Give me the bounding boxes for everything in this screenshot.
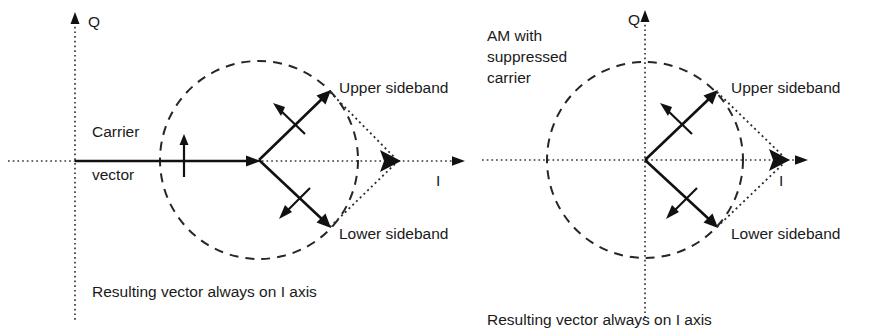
- right-annotation-line-3: carrier: [487, 69, 531, 86]
- right-i-axis-arrowhead: [795, 155, 808, 165]
- right-upper-construction-line: [717, 92, 784, 157]
- left-carrier-tick-arrowhead: [180, 134, 189, 145]
- right-upper-sideband-shaft: [645, 97, 711, 160]
- left-carrier-label-line2: vector: [92, 166, 134, 183]
- right-upper-sideband-label: Upper sideband: [731, 79, 840, 96]
- diagram-svg: Carrier vector Upper sideband Lower side…: [0, 0, 880, 336]
- left-upper-sideband-shaft: [259, 97, 324, 160]
- left-lower-sideband-label: Lower sideband: [339, 225, 448, 242]
- right-annotation-line-1: AM with: [487, 27, 542, 44]
- right-q-axis-arrowhead: [641, 10, 650, 22]
- right-lower-sideband-label: Lower sideband: [731, 225, 840, 242]
- left-panel: Carrier vector Upper sideband Lower side…: [8, 12, 465, 320]
- left-caption: Resulting vector always on I axis: [92, 283, 317, 300]
- left-q-axis-label: Q: [88, 13, 100, 30]
- left-lower-construction-line: [330, 164, 395, 227]
- left-upper-construction-line: [330, 92, 395, 158]
- am-vector-diagram-figure: Carrier vector Upper sideband Lower side…: [0, 0, 880, 336]
- right-panel: AM with suppressed carrier Upper sideban…: [482, 10, 840, 328]
- left-carrier-label-line1: Carrier: [92, 123, 139, 140]
- left-i-axis-arrowhead: [452, 156, 465, 166]
- left-q-axis-arrowhead: [71, 12, 80, 24]
- right-lower-construction-line: [717, 163, 784, 227]
- right-caption: Resulting vector always on I axis: [487, 311, 712, 328]
- right-annotation-line-2: suppressed: [487, 48, 567, 65]
- left-upper-sideband-label: Upper sideband: [339, 79, 448, 96]
- left-i-axis-label: I: [436, 172, 440, 189]
- right-resultant-arrowhead: [769, 149, 790, 171]
- right-q-axis-label: Q: [628, 11, 640, 28]
- right-i-axis-label: I: [779, 172, 783, 189]
